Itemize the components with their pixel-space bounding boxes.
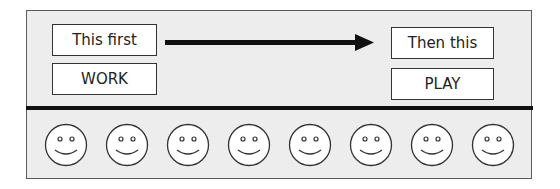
first-header-label: This first [72, 31, 137, 49]
first-activity-box: WORK [52, 63, 157, 95]
smiley-face-icon[interactable] [288, 123, 332, 167]
token-strip [26, 110, 533, 180]
then-activity-label: PLAY [424, 75, 460, 93]
smiley-face-icon[interactable] [410, 123, 454, 167]
then-header-label: Then this [408, 34, 478, 52]
smiley-face-icon[interactable] [105, 123, 149, 167]
smiley-face-icon[interactable] [44, 123, 88, 167]
smiley-face-icon[interactable] [227, 123, 271, 167]
smiley-face-icon[interactable] [471, 123, 515, 167]
smiley-face-icon[interactable] [166, 123, 210, 167]
smiley-face-icon[interactable] [349, 123, 393, 167]
right-arrow-icon [165, 33, 380, 53]
first-activity-label: WORK [81, 70, 128, 88]
then-header-box: Then this [391, 27, 494, 59]
first-header-box: This first [52, 24, 157, 56]
then-activity-box: PLAY [391, 68, 494, 100]
